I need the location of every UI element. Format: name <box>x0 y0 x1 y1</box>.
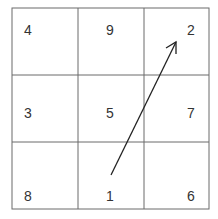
cell-r1c2: 9 <box>102 23 118 37</box>
cell-r1c1: 4 <box>20 23 36 37</box>
cell-r2c2: 5 <box>102 106 118 120</box>
cell-r1c3: 2 <box>183 23 199 37</box>
cell-r2c3: 7 <box>183 106 199 120</box>
magic-square-diagram: 4 9 2 3 5 7 8 1 6 <box>0 0 218 219</box>
cell-r2c1: 3 <box>20 106 36 120</box>
cell-r3c3: 6 <box>183 189 199 203</box>
cell-r3c2: 1 <box>102 189 118 203</box>
cell-r3c1: 8 <box>20 189 36 203</box>
